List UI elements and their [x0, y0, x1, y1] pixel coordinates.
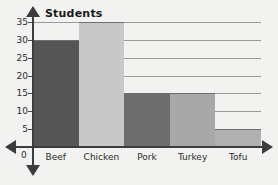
x-axis-line [14, 146, 264, 148]
chart-title: Students [45, 7, 103, 20]
bar-chart-screenshot: 5101520253035 Students 0 BeefChickenPork… [0, 0, 278, 185]
bar-slot [79, 22, 125, 147]
axis-arrow-left-icon [5, 140, 16, 154]
bar [33, 40, 79, 147]
y-axis-tick-label: 20 [17, 72, 28, 81]
y-axis-tick-label: 35 [17, 18, 28, 27]
axis-arrow-up-icon [26, 6, 40, 17]
x-axis-tick-label: Chicken [79, 152, 125, 162]
y-axis-tick-label: 30 [17, 36, 28, 45]
y-axis-tick-label: 15 [17, 89, 28, 98]
y-axis-tick-label: 5 [22, 125, 28, 134]
x-axis-tick-label: Beef [33, 152, 79, 162]
axis-arrow-right-icon [262, 140, 273, 154]
bar-series [33, 22, 261, 147]
origin-label: 0 [21, 150, 27, 160]
bar-slot [124, 22, 170, 147]
x-axis-tick-label: Turkey [170, 152, 216, 162]
bar-slot [33, 22, 79, 147]
bar [79, 22, 125, 147]
x-axis-tick-label: Pork [124, 152, 170, 162]
x-axis-tick-labels: BeefChickenPorkTurkeyTofu [33, 152, 261, 162]
bar-slot [170, 22, 216, 147]
y-axis-tick-label: 10 [17, 107, 28, 116]
bar-slot [215, 22, 261, 147]
bar [124, 93, 170, 147]
bar [215, 129, 261, 147]
axis-arrow-down-icon [26, 165, 40, 176]
bar [170, 93, 216, 147]
x-axis-tick-label: Tofu [215, 152, 261, 162]
y-axis-tick-label: 25 [17, 54, 28, 63]
